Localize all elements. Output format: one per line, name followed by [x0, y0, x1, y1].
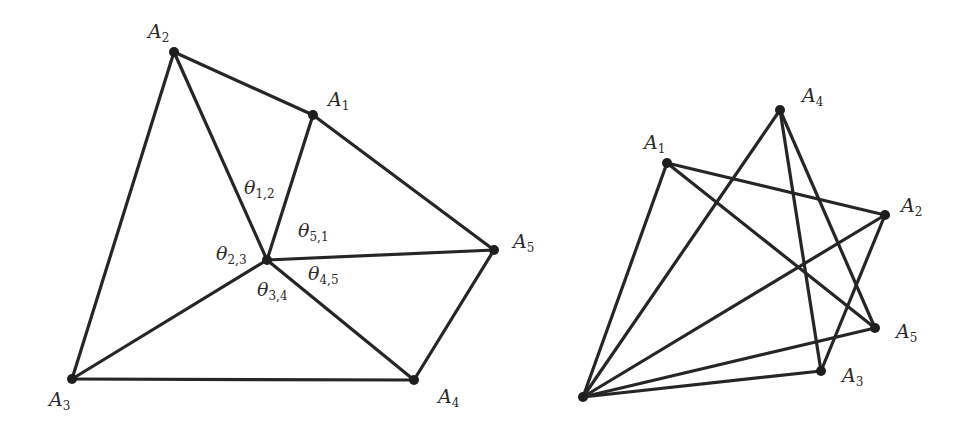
left-label-A2-subscript: 2 [162, 31, 170, 45]
left-angle-label-4-5-subscript: 4,5 [319, 273, 338, 287]
left-diagram-edges [72, 52, 494, 380]
left-label-A4-subscript: 4 [452, 396, 460, 410]
left-angle-label-3-4-subscript: 3,4 [268, 289, 287, 303]
left-vertex-A2 [169, 47, 179, 57]
right-label-A4: A4 [802, 86, 823, 108]
right-label-A1-subscript: 1 [658, 142, 666, 156]
left-edge-A3-A2 [72, 52, 174, 379]
left-vertex-A4 [409, 375, 419, 385]
left-angle-label-2-3-subscript: 2,3 [227, 253, 246, 267]
right-label-A2-base: A [901, 194, 915, 216]
right-vertex-A4 [775, 105, 785, 115]
left-label-A5: A5 [513, 232, 534, 254]
graph-drawing [0, 0, 970, 433]
right-edge-A4-A5 [780, 110, 875, 328]
right-label-A5-subscript: 5 [910, 331, 918, 345]
left-edge-A2-A1 [174, 52, 313, 115]
right-edge-O-A5 [583, 328, 875, 397]
left-angle-label-4-5: θ4,5 [308, 264, 339, 286]
left-angle-label-5-1-subscript: 5,1 [309, 230, 328, 244]
left-angle-label-1-2-subscript: 1,2 [255, 187, 274, 201]
right-vertex-A1 [662, 158, 672, 168]
left-edge-A1-A5 [313, 115, 494, 250]
left-label-A3-base: A [49, 388, 63, 410]
right-label-A3: A3 [842, 366, 863, 388]
right-vertex-O [578, 392, 588, 402]
right-edge-O-A2 [583, 215, 885, 397]
left-label-A5-subscript: 5 [527, 241, 535, 255]
left-edge-O-A2 [174, 52, 267, 260]
right-label-A5: A5 [896, 322, 917, 344]
left-angle-label-3-4-base: θ [257, 278, 268, 300]
left-edge-O-A3 [72, 260, 267, 379]
right-edge-O-A4 [583, 110, 780, 397]
left-angle-label-5-1-base: θ [298, 219, 309, 241]
left-angle-label-5-1: θ5,1 [298, 221, 329, 243]
right-label-A1-base: A [644, 131, 658, 153]
right-edge-A4-A3 [780, 110, 821, 371]
left-edge-O-A5 [267, 250, 494, 260]
left-label-A1: A1 [328, 90, 349, 112]
left-angle-label-2-3-base: θ [216, 242, 227, 264]
right-vertex-A3 [816, 366, 826, 376]
diagram-canvas: A1A2A3A4A5θ1,2θ5,1θ2,3θ4,5θ3,4A1A2A3A4A5 [0, 0, 970, 433]
left-angle-label-2-3: θ2,3 [216, 244, 247, 266]
left-vertex-A1 [308, 110, 318, 120]
left-edge-A4-A3 [72, 379, 414, 380]
right-diagram-edges [583, 110, 885, 397]
left-label-A4: A4 [438, 387, 459, 409]
left-edge-O-A4 [267, 260, 414, 380]
right-label-A3-base: A [842, 364, 856, 386]
left-label-A3: A3 [49, 390, 70, 412]
left-label-A1-subscript: 1 [342, 99, 350, 113]
right-edge-O-A1 [583, 163, 667, 397]
left-label-A5-base: A [513, 230, 527, 252]
left-vertex-A5 [489, 245, 499, 255]
right-label-A2: A2 [901, 196, 922, 218]
left-vertex-O [262, 255, 272, 265]
left-angle-label-1-2-base: θ [244, 176, 255, 198]
left-label-A2-base: A [148, 20, 162, 42]
left-vertex-A3 [67, 374, 77, 384]
left-label-A2: A2 [148, 22, 169, 44]
left-angle-label-1-2: θ1,2 [244, 178, 275, 200]
left-label-A4-base: A [438, 385, 452, 407]
left-angle-label-3-4: θ3,4 [257, 280, 288, 302]
vertex-dots [67, 47, 890, 402]
right-label-A2-subscript: 2 [915, 205, 923, 219]
right-label-A3-subscript: 3 [856, 375, 864, 389]
right-label-A1: A1 [644, 133, 665, 155]
left-label-A1-base: A [328, 88, 342, 110]
left-label-A3-subscript: 3 [63, 399, 71, 413]
right-vertex-A5 [870, 323, 880, 333]
right-vertex-A2 [880, 210, 890, 220]
right-label-A4-subscript: 4 [816, 95, 824, 109]
left-edge-A5-A4 [414, 250, 494, 380]
right-label-A4-base: A [802, 84, 816, 106]
right-label-A5-base: A [896, 320, 910, 342]
left-angle-label-4-5-base: θ [308, 262, 319, 284]
